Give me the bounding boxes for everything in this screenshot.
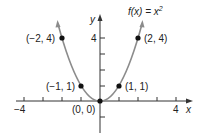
point-neg2-4 [59, 35, 64, 40]
point-origin [97, 98, 102, 103]
y-axis-label: y [89, 14, 96, 25]
label-point-2-4: (2, 4) [144, 33, 167, 44]
point-1-1 [116, 83, 121, 88]
y-axis [98, 14, 106, 133]
x-tick-label-neg4: −4 [14, 104, 26, 115]
function-label: f(x) = x2 [128, 5, 163, 17]
label-point-neg2-4: (−2, 4) [26, 33, 55, 44]
x-axis-label: x [185, 104, 192, 115]
point-neg1-1 [78, 83, 83, 88]
label-point-neg1-1: (−1, 1) [46, 81, 75, 92]
parabola-chart: (−2, 4) (−1, 1) (0, 0) (1, 1) (2, 4) −4 … [0, 0, 203, 139]
label-point-1-1: (1, 1) [125, 81, 148, 92]
point-2-4 [135, 35, 140, 40]
x-tick-label-4: 4 [173, 104, 179, 115]
y-tick-label-4: 4 [91, 33, 97, 44]
label-point-origin: (0, 0) [72, 104, 95, 115]
